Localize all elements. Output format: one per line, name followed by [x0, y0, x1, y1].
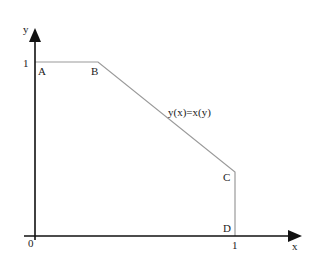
y-tick-label: 1	[23, 57, 29, 69]
point-a-label: A	[38, 65, 46, 77]
curve-path	[35, 62, 235, 236]
diagram-canvas: y x 0 1 1 A B C D y(x)=x(y)	[0, 0, 312, 256]
x-tick-label: 1	[232, 239, 238, 251]
point-b-label: B	[91, 65, 98, 77]
point-c-label: C	[223, 171, 230, 183]
curve-label: y(x)=x(y)	[168, 106, 211, 119]
point-d-label: D	[223, 222, 231, 234]
origin-label: 0	[28, 237, 34, 249]
x-axis-label: x	[292, 240, 298, 252]
y-axis-label: y	[23, 23, 29, 35]
y-axis-arrow-icon	[29, 28, 41, 42]
diagram-svg: y x 0 1 1 A B C D y(x)=x(y)	[0, 0, 312, 256]
